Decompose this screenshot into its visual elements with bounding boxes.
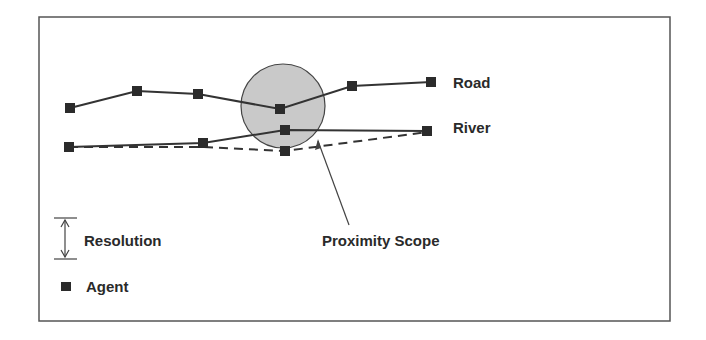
agent-marker	[64, 142, 74, 152]
agent-marker	[422, 126, 432, 136]
agent-marker	[347, 81, 357, 91]
agent-marker	[275, 104, 285, 114]
proximity-diagram: Road River Proximity Scope Resolution Ag…	[0, 0, 706, 340]
double-arrow-icon	[54, 218, 77, 259]
road-label: Road	[453, 74, 491, 91]
river-line-dashed	[69, 132, 427, 151]
agent-label: Agent	[86, 278, 129, 295]
agent-marker	[132, 86, 142, 96]
river-label: River	[453, 119, 491, 136]
agent-square-icon	[61, 282, 71, 291]
legend-resolution: Resolution	[54, 218, 162, 259]
resolution-label: Resolution	[84, 232, 162, 249]
agent-marker	[280, 125, 290, 135]
agent-marker	[193, 89, 203, 99]
figure-frame	[39, 17, 670, 321]
agent-marker	[280, 146, 290, 156]
agent-marker	[198, 138, 208, 148]
proximity-scope-pointer	[315, 139, 349, 225]
agent-marker	[65, 103, 75, 113]
agent-marker	[426, 77, 436, 87]
legend-agent: Agent	[61, 278, 129, 295]
proximity-scope-label: Proximity Scope	[322, 232, 440, 249]
